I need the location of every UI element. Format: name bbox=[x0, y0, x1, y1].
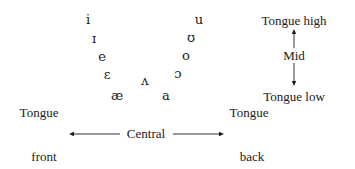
arrows bbox=[0, 0, 355, 169]
